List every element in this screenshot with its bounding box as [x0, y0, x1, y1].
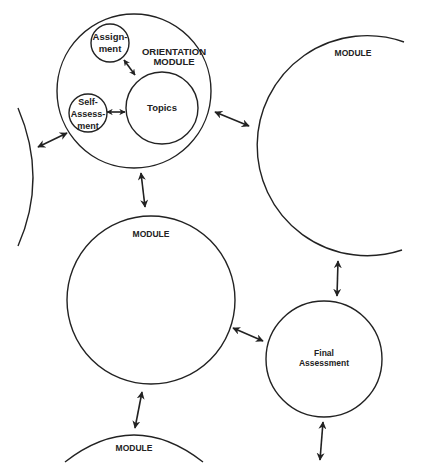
orientation-module-circle — [57, 14, 211, 168]
arrow-final-offscreen — [320, 422, 323, 460]
self-assessment-label-2: Assess- — [71, 109, 106, 119]
bottom-module-label: MODULE — [116, 443, 153, 453]
topics-label: Topics — [147, 102, 177, 113]
arrow-orientation-right — [215, 112, 249, 126]
arrow-middle-bottom — [135, 392, 142, 428]
assignment-label-1: Assign- — [93, 31, 128, 42]
orientation-label-2: MODULE — [153, 56, 194, 67]
arrow-right-final — [337, 261, 338, 296]
arrow-left-orientation — [38, 133, 67, 147]
right-module-label: MODULE — [335, 48, 372, 58]
middle-module-label: MODULE — [133, 229, 170, 239]
left-module-arc — [18, 108, 33, 246]
final-assessment-label-1: Final — [314, 348, 334, 358]
module-diagram: Assign- ment ORIENTATION MODULE Self- As… — [0, 0, 421, 476]
self-assessment-label-1: Self- — [78, 97, 98, 107]
arrow-middle-final — [233, 328, 263, 341]
assignment-label-2: ment — [99, 43, 123, 54]
arrow-orientation-middle — [141, 173, 145, 207]
arrow-assignment-topics — [124, 60, 135, 75]
self-assessment-label-3: ment — [77, 121, 99, 131]
right-module-arc — [257, 36, 404, 256]
final-assessment-label-2: Assessment — [299, 358, 349, 368]
middle-module-circle — [67, 216, 235, 384]
